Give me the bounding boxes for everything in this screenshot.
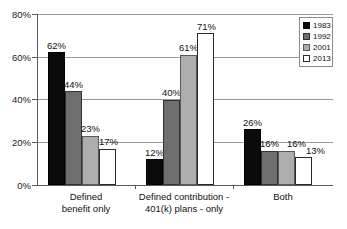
bar-2013-defined-contribution [197, 33, 214, 185]
y-axis-label-60: 60% [12, 53, 31, 62]
y-axis-label-80: 80% [12, 10, 31, 19]
x-axis-category-both: Both [233, 191, 333, 203]
legend-item-2001: 2001 [303, 42, 330, 53]
bar-1983-both [244, 129, 261, 185]
bar-1983-defined-contribution [146, 159, 163, 185]
y-tick-80 [32, 14, 37, 15]
bar-value-label: 16% [255, 139, 284, 149]
y-axis-line [37, 14, 38, 186]
y-tick-60 [32, 57, 37, 58]
bar-value-label: 26% [238, 118, 267, 128]
bar-value-label: 17% [94, 137, 123, 147]
bar-1983-defined-benefit-only [48, 52, 65, 185]
legend-swatch-2013-icon [303, 55, 310, 62]
legend-label-2013: 2013 [313, 54, 331, 63]
legend-label-1992: 1992 [313, 32, 331, 41]
x-axis-line [37, 185, 333, 186]
y-tick-20 [32, 142, 37, 143]
bar-2013-both [295, 157, 312, 185]
y-axis-label-40: 40% [12, 95, 31, 104]
category-line-2: 401(k) plans - only [135, 203, 233, 215]
bar-1992-defined-contribution [163, 100, 180, 186]
bar-2013-defined-benefit-only [99, 149, 116, 185]
bar-chart: 62% 44% 23% 17% 12% 40% 61% 71% 26% 16% … [0, 0, 347, 229]
category-line-1: Both [273, 191, 293, 202]
bar-value-label: 62% [42, 41, 71, 51]
legend-item-2013: 2013 [303, 53, 330, 64]
legend-label-2001: 2001 [313, 43, 331, 52]
legend-item-1992: 1992 [303, 31, 330, 42]
y-tick-40 [32, 99, 37, 100]
bar-2001-defined-contribution [180, 55, 197, 185]
y-axis-label-20: 20% [12, 138, 31, 147]
chart-legend: 1983 1992 2001 2013 [299, 17, 333, 67]
legend-swatch-1983-icon [303, 22, 310, 29]
legend-swatch-2001-icon [303, 44, 310, 51]
category-line-1: Defined [70, 191, 103, 202]
legend-item-1983: 1983 [303, 20, 330, 31]
bar-value-label: 23% [76, 124, 105, 134]
bar-1992-defined-benefit-only [65, 91, 82, 185]
x-axis-category-defined-contribution: Defined contribution - 401(k) plans - on… [135, 191, 233, 214]
bar-value-label: 44% [59, 80, 88, 90]
category-line-2: benefit only [37, 203, 135, 215]
y-axis-label-0: 0% [17, 181, 31, 190]
legend-swatch-1992-icon [303, 33, 310, 40]
bar-value-label: 71% [192, 22, 221, 32]
plot-area: 62% 44% 23% 17% 12% 40% 61% 71% 26% 16% … [37, 14, 333, 185]
gridline-80 [37, 14, 333, 15]
bar-2001-both [278, 151, 295, 185]
x-axis-separator [233, 185, 234, 189]
x-axis-category-defined-benefit-only: Defined benefit only [37, 191, 135, 214]
category-line-1: Defined contribution - [139, 191, 229, 202]
bar-1992-both [261, 151, 278, 185]
y-tick-0 [32, 185, 37, 186]
bar-value-label: 13% [301, 146, 330, 156]
legend-label-1983: 1983 [313, 21, 331, 30]
x-axis-separator [135, 185, 136, 189]
